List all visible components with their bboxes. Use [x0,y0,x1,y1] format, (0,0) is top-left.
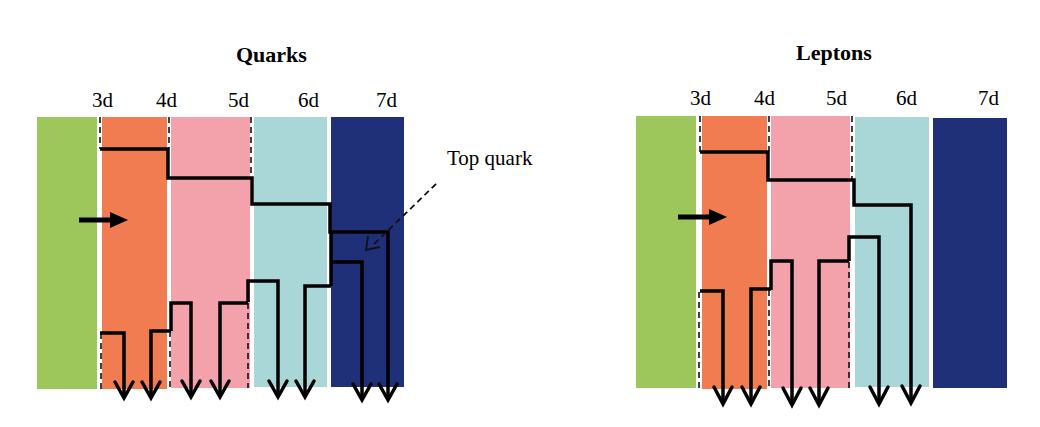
quarks-band-green [37,117,97,389]
quarks-band-orange [102,117,167,389]
leptons-panel [636,116,1007,405]
leptons-band-orange [702,116,767,389]
leptons-down-arrowheads [714,386,920,405]
quarks-band-pink [171,117,250,388]
quarks-band-lightblue [254,117,327,387]
quarks-band-navy [331,117,404,387]
diagram-canvas [0,0,1040,427]
leptons-band-pink [771,116,850,388]
quarks-panel [37,117,436,400]
leptons-band-lightblue [855,117,929,387]
leptons-band-green [636,116,696,388]
leptons-band-navy [933,118,1007,388]
